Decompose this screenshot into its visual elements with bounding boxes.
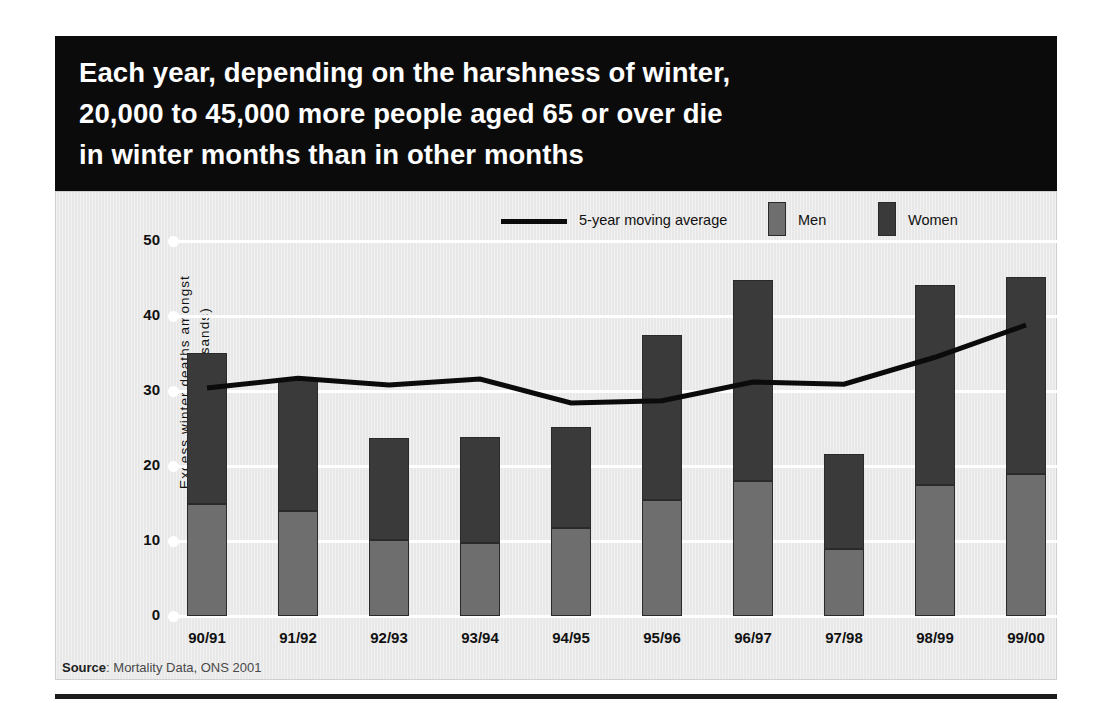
- x-axis-tick-label: 95/96: [628, 629, 696, 646]
- source-prefix: Source: [62, 660, 106, 675]
- x-axis-tick-label: 93/94: [446, 629, 514, 646]
- bar-segment-men: [915, 485, 955, 616]
- bar-segment-women: [369, 438, 409, 539]
- x-axis-tick-label: 90/91: [173, 629, 241, 646]
- bar-segment-men: [642, 500, 682, 616]
- bar-segment-men: [460, 543, 500, 617]
- bottom-rule: [55, 694, 1057, 699]
- bar-segment-men: [824, 549, 864, 617]
- bar-segment-men: [733, 481, 773, 616]
- source-note: Source: Mortality Data, ONS 2001: [62, 660, 261, 675]
- headline-line-1: Each year, depending on the harshness of…: [79, 52, 1039, 93]
- legend-men-swatch: [768, 202, 786, 236]
- chart-panel: Excess winter deaths amongst over-65s (t…: [55, 191, 1057, 680]
- bar-segment-women: [824, 454, 864, 549]
- bar-segment-men: [551, 528, 591, 616]
- bar-segment-women: [915, 285, 955, 485]
- bar-segment-women: [733, 280, 773, 481]
- gridline-knob: [168, 536, 179, 547]
- x-axis-tick-label: 92/93: [355, 629, 423, 646]
- bar-segment-women: [278, 378, 318, 511]
- gridline-knob: [168, 386, 179, 397]
- headline-text: Each year, depending on the harshness of…: [79, 52, 1039, 175]
- bar-segment-women: [187, 353, 227, 504]
- x-axis-tick-label: 99/00: [992, 629, 1060, 646]
- bar-segment-women: [1006, 277, 1046, 474]
- source-text: : Mortality Data, ONS 2001: [106, 660, 261, 675]
- legend-line-swatch: [501, 219, 567, 224]
- y-axis-tick-label: 40: [116, 306, 160, 323]
- x-axis-tick-label: 94/95: [537, 629, 605, 646]
- y-axis-tick-label: 20: [116, 456, 160, 473]
- bar-segment-men: [369, 540, 409, 617]
- x-axis-tick-label: 96/97: [719, 629, 787, 646]
- y-axis-tick-label: 0: [116, 606, 160, 623]
- headline-line-2: 20,000 to 45,000 more people aged 65 or …: [79, 93, 1039, 134]
- legend-line-label: 5-year moving average: [579, 212, 727, 228]
- bar-segment-women: [642, 335, 682, 500]
- y-axis-tick-label: 30: [116, 381, 160, 398]
- gridline-knob: [168, 611, 179, 622]
- chart-figure: Each year, depending on the harshness of…: [0, 0, 1108, 717]
- x-axis-tick-label: 97/98: [810, 629, 878, 646]
- gridline-knob: [168, 461, 179, 472]
- headline-line-3: in winter months than in other months: [79, 134, 1039, 175]
- headline-banner: Each year, depending on the harshness of…: [55, 36, 1057, 191]
- bar-segment-women: [460, 437, 500, 543]
- bar-segment-men: [278, 511, 318, 616]
- gridline-knob: [168, 311, 179, 322]
- bar-segment-women: [551, 427, 591, 528]
- legend-women-label: Women: [908, 212, 958, 228]
- x-axis-tick-label: 98/99: [901, 629, 969, 646]
- y-axis-tick-label: 10: [116, 531, 160, 548]
- x-axis-tick-label: 91/92: [264, 629, 332, 646]
- legend: 5-year moving average Men Women: [56, 210, 1056, 250]
- bar-segment-men: [1006, 474, 1046, 617]
- legend-women-swatch: [878, 202, 896, 236]
- bar-segment-men: [187, 504, 227, 617]
- legend-men-label: Men: [798, 212, 826, 228]
